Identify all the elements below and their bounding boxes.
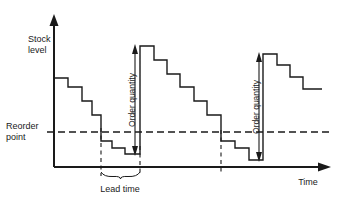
order-quantity-annotation-2: Order quantity [251, 52, 262, 162]
order-quantity-2-arrowhead-top [256, 52, 262, 62]
order-quantity-1-arrowhead-top [132, 44, 138, 54]
order-quantity-annotation-1: Order quantity [127, 44, 138, 156]
y-axis-label-line1: Stock [28, 34, 51, 44]
y-axis [50, 14, 59, 167]
reorder-point-label-line2: point [6, 132, 26, 142]
order-quantity-label-2: Order quantity [251, 79, 261, 134]
x-axis-arrowhead [318, 163, 331, 172]
lead-time-label: Lead time [100, 184, 140, 194]
order-quantity-label-1: Order quantity [127, 72, 137, 127]
reorder-point-label-line1: Reorder [6, 121, 39, 131]
y-axis-arrowhead [50, 14, 59, 26]
stock-level-path [54, 46, 322, 160]
x-axis-label: Time [298, 177, 318, 187]
inventory-chart-figure: Order quantity Order quantity Stock leve… [0, 0, 346, 198]
y-axis-label-line2: level [28, 45, 47, 55]
x-axis [54, 163, 331, 172]
inventory-diagram-svg: Order quantity Order quantity Stock leve… [0, 0, 346, 198]
lead-time-brace [101, 172, 140, 179]
